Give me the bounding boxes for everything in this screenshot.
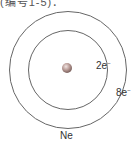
outer-shell-electron-label: 8e− <box>116 87 131 98</box>
nucleus <box>62 63 72 73</box>
atom-diagram <box>0 0 134 144</box>
element-symbol-label: Ne <box>60 130 73 141</box>
inner-shell-electron-label: 2e− <box>96 60 111 71</box>
